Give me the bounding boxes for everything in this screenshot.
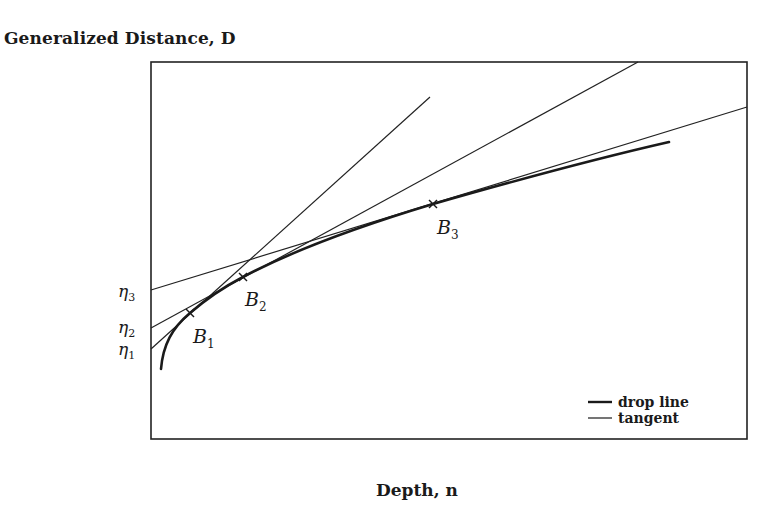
plot-frame xyxy=(151,62,747,439)
x-axis-label: Depth, n xyxy=(0,480,784,500)
point-label-b2: B2 xyxy=(244,288,267,314)
legend: drop line tangent xyxy=(588,394,689,426)
point-marker-b1 xyxy=(186,309,194,317)
legend-label-drop-line: drop line xyxy=(618,394,689,410)
y-tick-eta1: η1 xyxy=(118,339,135,362)
y-tick-eta2: η2 xyxy=(118,317,135,340)
drop-line-curve xyxy=(161,142,669,369)
y-tick-eta3: η3 xyxy=(118,281,135,304)
point-label-b1: B1 xyxy=(192,325,215,351)
point-marker-b2 xyxy=(239,273,247,281)
legend-label-tangent: tangent xyxy=(618,410,680,426)
chart-plot: B1 B2 B3 η3 η2 η1 drop line tangent xyxy=(0,0,784,506)
point-label-b3: B3 xyxy=(436,216,459,242)
